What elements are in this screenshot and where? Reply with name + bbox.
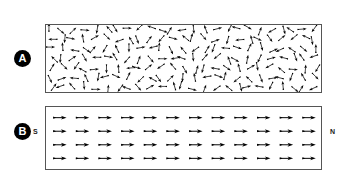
panel-a-arrow-field: [46, 25, 321, 92]
north-pole-label: N: [330, 128, 335, 135]
figure-root: A B S N: [0, 0, 357, 193]
panel-b-arrow-field: [46, 107, 321, 169]
panel-a-badge: A: [14, 50, 31, 67]
panel-b-badge: B: [14, 123, 31, 140]
panel-b-aligned-domains: [45, 106, 322, 170]
south-pole-label: S: [33, 128, 38, 135]
panel-a-random-domains: [45, 24, 322, 93]
